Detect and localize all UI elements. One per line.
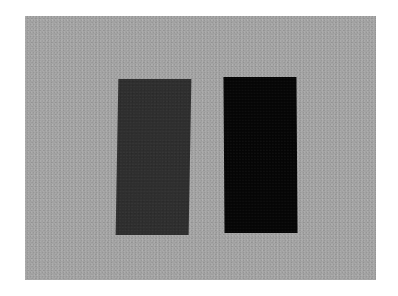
gray-background-panel — [25, 16, 376, 280]
dark-gray-rectangle — [116, 79, 192, 235]
black-rectangle — [223, 77, 297, 233]
